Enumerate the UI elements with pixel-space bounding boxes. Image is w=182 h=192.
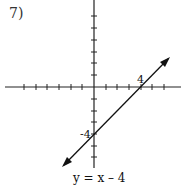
coordinate-plane: [0, 0, 182, 192]
equation-label: y = x – 4: [73, 171, 126, 185]
y-tick-label: -4: [80, 128, 91, 141]
x-tick-label: 4: [137, 73, 144, 86]
